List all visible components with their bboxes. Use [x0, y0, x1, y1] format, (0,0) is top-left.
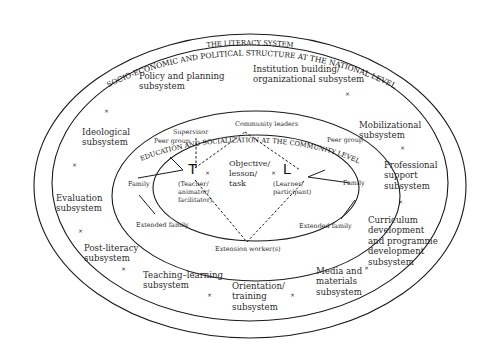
orientation-training-subsystem: Orientation/ training subsystem: [232, 281, 285, 312]
evaluation-subsystem: Evaluation subsystem: [56, 193, 103, 214]
extension-workers-label: Extension worker(s): [215, 246, 280, 254]
mobilizational-subsystem: Mobilizational subsystem: [359, 120, 421, 141]
svg-text:×: ×: [271, 169, 276, 176]
svg-text:×: ×: [72, 161, 77, 168]
learner-description: (Learner/ participant): [273, 181, 311, 197]
family-left-label: Family: [128, 181, 150, 189]
extended-family-right-label: Extended family: [299, 223, 352, 231]
peer-group-right-label: Peer group: [327, 137, 363, 145]
ideological-subsystem: Ideological subsystem: [82, 127, 130, 148]
supervisor-label: Supervisor: [173, 129, 208, 137]
svg-text:×: ×: [400, 144, 405, 151]
literacy-system-title: THE LITERACY SYSTEM: [206, 39, 294, 49]
svg-text:×: ×: [205, 169, 210, 176]
policy-planning-subsystem: Policy and planning subsystem: [139, 71, 225, 92]
media-materials-subsystem: Media and materials subsystem: [316, 266, 362, 297]
family-right-label: Family: [343, 180, 365, 188]
svg-text:×: ×: [207, 291, 212, 298]
svg-text:×: ×: [398, 198, 403, 205]
learner-letter: L: [283, 160, 291, 178]
svg-text:×: ×: [78, 227, 83, 234]
family-extended-line-left: [139, 195, 155, 214]
extended-family-left-label: Extended family: [136, 222, 189, 230]
community-leaders-label: Community leaders: [235, 121, 298, 129]
teacher-description: (Teacher/ animator/ facilitator): [178, 181, 212, 204]
institution-building-subsystem: Institution building/ organizational sub…: [253, 64, 364, 85]
professional-support-subsystem: Professional support subsystem: [384, 160, 437, 191]
teaching-learning-subsystem: Teaching–learning subsystem: [143, 270, 223, 291]
post-literacy-subsystem: Post-literacy subsystem: [84, 243, 138, 264]
literacy-system-diagram: SOCIO-ECONOMIC AND POLITICAL STRUCTURE A…: [0, 0, 491, 345]
peer-group-left-label: Peer group: [154, 138, 190, 146]
teacher-letter: T: [188, 160, 197, 178]
curriculum-development-subsystem: Curriculum development and programme dev…: [368, 215, 438, 267]
svg-text:×: ×: [345, 90, 350, 97]
svg-text:×: ×: [121, 265, 126, 272]
svg-text:×: ×: [290, 291, 295, 298]
family-extended-line-right: [341, 200, 355, 219]
objective-lesson-task: Objective/ lesson/ task: [229, 159, 270, 188]
svg-text:×: ×: [104, 107, 109, 114]
